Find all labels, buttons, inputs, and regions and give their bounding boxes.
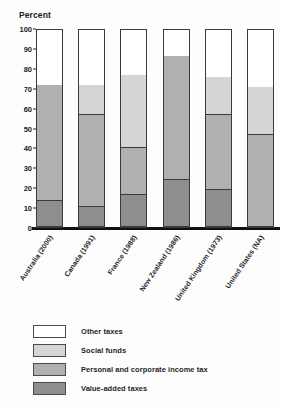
x-axis-label-1: Canada (1991) bbox=[63, 234, 96, 278]
bar-france-1988[interactable] bbox=[120, 29, 147, 228]
bar-united-states-na[interactable] bbox=[247, 29, 274, 228]
bar-segment bbox=[164, 30, 189, 56]
x-axis-label-3: New Zealand (1986) bbox=[138, 234, 181, 293]
legend-item[interactable]: Social funds bbox=[33, 341, 268, 360]
bar-segment bbox=[164, 180, 189, 227]
bar-segment bbox=[121, 75, 146, 148]
bar-segment bbox=[206, 115, 231, 190]
bar-segment bbox=[79, 30, 104, 85]
bar-segment bbox=[79, 207, 104, 227]
legend-swatch bbox=[33, 344, 66, 357]
bar-segment bbox=[206, 190, 231, 227]
bar-segment bbox=[206, 77, 231, 114]
legend-label: Personal and corporate income tax bbox=[81, 365, 208, 374]
legend-label: Social funds bbox=[81, 346, 126, 355]
bar-group bbox=[36, 29, 274, 228]
bar-segment bbox=[79, 85, 104, 115]
legend-swatch bbox=[33, 325, 66, 338]
bar-segment bbox=[248, 87, 273, 135]
x-axis-label-2: France (1988) bbox=[107, 234, 138, 276]
bar-segment bbox=[248, 135, 273, 227]
plot-area: 0102030405060708090100 bbox=[36, 29, 274, 228]
x-axis-labels: Australia (2000)Canada (1991)France (198… bbox=[36, 232, 274, 308]
bar-segment bbox=[79, 115, 104, 208]
legend-item[interactable]: Value-added taxes bbox=[33, 379, 268, 398]
legend-label: Value-added taxes bbox=[81, 384, 147, 393]
legend-swatch bbox=[33, 382, 66, 395]
x-axis-label-5: United States (NA) bbox=[224, 234, 265, 290]
legend-item[interactable]: Personal and corporate income tax bbox=[33, 360, 268, 379]
legend-item[interactable]: Other taxes bbox=[33, 322, 268, 341]
bar-segment bbox=[37, 85, 62, 201]
bar-segment bbox=[164, 56, 189, 180]
legend-label: Other taxes bbox=[81, 327, 123, 336]
x-axis-label-0: Australia (2000) bbox=[18, 234, 53, 282]
bar-segment bbox=[121, 148, 146, 194]
bar-segment bbox=[206, 30, 231, 77]
bar-segment bbox=[121, 30, 146, 75]
bar-united-kingdom-1973[interactable] bbox=[205, 29, 232, 228]
y-axis-title: Percent bbox=[19, 10, 51, 20]
bar-australia-2000[interactable] bbox=[36, 29, 63, 228]
x-axis-label-4: United Kingdom (1973) bbox=[174, 234, 223, 302]
chart-figure: Percent 0102030405060708090100 Australia… bbox=[0, 0, 281, 408]
bar-segment bbox=[37, 201, 62, 227]
bar-segment bbox=[121, 195, 146, 228]
legend-swatch bbox=[33, 363, 66, 376]
bar-new-zealand-1986[interactable] bbox=[163, 29, 190, 228]
chart-legend: Other taxesSocial fundsPersonal and corp… bbox=[33, 322, 268, 398]
bar-canada-1991[interactable] bbox=[78, 29, 105, 228]
bar-segment bbox=[248, 30, 273, 87]
bar-segment bbox=[37, 30, 62, 85]
